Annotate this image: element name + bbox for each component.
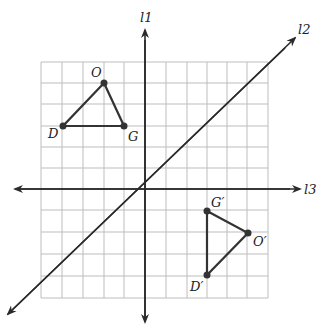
point-g-prime [204,208,211,215]
label-d-prime: D′ [189,279,203,294]
point-o [101,80,108,87]
label-o: O [91,65,102,80]
label-g: G [128,129,138,144]
label-d: D [47,126,59,141]
point-o-prime [245,230,252,237]
point-g [121,123,128,130]
point-d-prime [204,272,211,279]
reflection-diagram: l1 l3 l2 O D G G′ O′ D′ [0,0,320,326]
label-l1: l1 [140,10,152,25]
label-o-prime: O′ [253,234,267,249]
line-l2-down [8,48,285,314]
label-g-prime: G′ [211,195,224,210]
label-l2: l2 [298,22,310,37]
point-d [60,123,67,130]
label-l3: l3 [304,182,316,197]
